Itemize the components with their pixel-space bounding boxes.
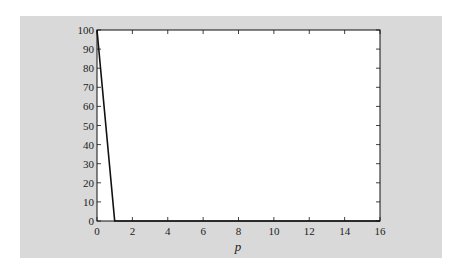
x-tick-label: 16 (375, 225, 387, 237)
y-tick-label: 70 (83, 81, 95, 93)
line-chart: 0102030405060708090100 0246810121416 p (0, 0, 458, 269)
y-tick-label: 80 (83, 62, 95, 74)
y-tick-label: 60 (83, 100, 95, 112)
y-tick-label: 90 (83, 43, 95, 55)
y-tick-label: 50 (83, 120, 95, 132)
y-tick-label: 100 (78, 24, 95, 36)
x-tick-label: 4 (165, 225, 171, 237)
x-tick-label: 0 (94, 225, 100, 237)
y-tick-label: 10 (83, 196, 95, 208)
y-tick-label: 40 (83, 139, 95, 151)
plot-area (97, 30, 380, 221)
y-tick-label: 30 (83, 158, 95, 170)
x-tick-label: 8 (236, 225, 242, 237)
x-tick-label: 6 (200, 225, 206, 237)
y-tick-label: 20 (83, 177, 95, 189)
x-tick-label: 14 (339, 225, 351, 237)
x-axis-label: p (234, 239, 242, 254)
x-tick-label: 2 (130, 225, 136, 237)
x-tick-label: 10 (268, 225, 280, 237)
x-tick-label: 12 (304, 225, 315, 237)
